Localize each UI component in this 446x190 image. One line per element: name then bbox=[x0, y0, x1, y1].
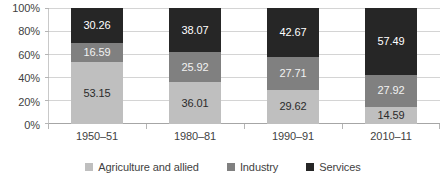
bar-group-1990-91: 42.67 27.71 29.62 bbox=[244, 8, 342, 124]
bar-segment-services[interactable]: 30.26 bbox=[71, 8, 123, 43]
x-axis-label-2010-11: 2010–11 bbox=[342, 130, 440, 148]
chart-plot-wrapper: 100% 80% 60% 40% 20% 0% bbox=[0, 0, 446, 150]
bar-group-1980-81: 38.07 25.92 36.01 bbox=[146, 8, 244, 124]
x-axis-label-1990-91: 1990–91 bbox=[244, 130, 342, 148]
legend-item-industry[interactable]: Industry bbox=[227, 161, 278, 173]
bar-value-label: 16.59 bbox=[83, 47, 110, 58]
y-axis-tick-80: 80% bbox=[18, 25, 40, 37]
legend-label: Services bbox=[319, 161, 360, 173]
x-tickmark bbox=[342, 124, 343, 129]
bar-value-label: 36.01 bbox=[181, 98, 208, 109]
legend-swatch-icon bbox=[306, 163, 314, 171]
legend-swatch-icon bbox=[85, 163, 93, 171]
y-axis-tick-20: 20% bbox=[18, 96, 40, 108]
x-tickmark bbox=[244, 124, 245, 129]
bar-value-label: 25.92 bbox=[181, 62, 208, 73]
x-tickmark bbox=[146, 124, 147, 129]
y-axis-tick-100: 100% bbox=[12, 2, 40, 14]
bar-segment-industry[interactable]: 27.71 bbox=[267, 57, 319, 89]
legend-label: Industry bbox=[240, 161, 278, 173]
x-tickmark bbox=[439, 124, 440, 129]
bar-value-label: 38.07 bbox=[181, 25, 208, 36]
bar-segment-industry[interactable]: 16.59 bbox=[71, 43, 123, 62]
y-axis-tick-40: 40% bbox=[18, 72, 40, 84]
chart-screenshot: 100% 80% 60% 40% 20% 0% bbox=[0, 0, 446, 190]
bar-value-label: 14.59 bbox=[377, 110, 404, 121]
stacked-bar[interactable]: 30.26 16.59 53.15 bbox=[71, 8, 123, 124]
y-axis-tick-0: 0% bbox=[24, 119, 40, 131]
bar-group-1950-51: 30.26 16.59 53.15 bbox=[48, 8, 146, 124]
bar-group-2010-11: 57.49 27.92 14.59 bbox=[342, 8, 440, 124]
bar-series-container: 30.26 16.59 53.15 38.07 25.92 bbox=[48, 8, 440, 124]
bar-value-label: 30.26 bbox=[83, 20, 110, 31]
bar-segment-industry[interactable]: 25.92 bbox=[169, 52, 221, 82]
bar-value-label: 29.62 bbox=[279, 101, 306, 112]
x-axis: 1950–51 1980–81 1990–91 2010–11 bbox=[48, 130, 440, 148]
bar-segment-agriculture[interactable]: 36.01 bbox=[169, 82, 221, 124]
legend-item-services[interactable]: Services bbox=[306, 161, 360, 173]
bar-segment-services[interactable]: 38.07 bbox=[169, 8, 221, 52]
legend-swatch-icon bbox=[227, 163, 235, 171]
legend-label: Agriculture and allied bbox=[98, 161, 199, 173]
y-axis-tick-60: 60% bbox=[18, 49, 40, 61]
bar-value-label: 53.15 bbox=[83, 88, 110, 99]
x-axis-tickmarks bbox=[48, 124, 440, 129]
x-axis-label-1950-51: 1950–51 bbox=[48, 130, 146, 148]
bar-segment-industry[interactable]: 27.92 bbox=[365, 75, 417, 107]
bar-value-label: 42.67 bbox=[279, 27, 306, 38]
bar-segment-agriculture[interactable]: 29.62 bbox=[267, 90, 319, 124]
bar-segment-services[interactable]: 42.67 bbox=[267, 8, 319, 57]
bar-value-label: 27.92 bbox=[377, 85, 404, 96]
x-axis-label-1980-81: 1980–81 bbox=[146, 130, 244, 148]
stacked-bar[interactable]: 42.67 27.71 29.62 bbox=[267, 8, 319, 124]
bar-value-label: 27.71 bbox=[279, 68, 306, 79]
bar-segment-agriculture[interactable]: 14.59 bbox=[365, 107, 417, 124]
legend-item-agriculture[interactable]: Agriculture and allied bbox=[85, 161, 199, 173]
chart-legend: Agriculture and allied Industry Services bbox=[0, 158, 446, 176]
bar-segment-services[interactable]: 57.49 bbox=[365, 8, 417, 75]
bar-value-label: 57.49 bbox=[377, 36, 404, 47]
stacked-bar[interactable]: 57.49 27.92 14.59 bbox=[365, 8, 417, 124]
x-tickmark bbox=[48, 124, 49, 129]
bar-segment-agriculture[interactable]: 53.15 bbox=[71, 62, 123, 124]
y-axis: 100% 80% 60% 40% 20% 0% bbox=[0, 8, 44, 125]
stacked-bar[interactable]: 38.07 25.92 36.01 bbox=[169, 8, 221, 124]
